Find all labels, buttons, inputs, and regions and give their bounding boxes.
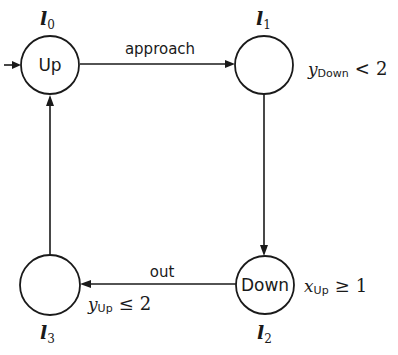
- location-l1[interactable]: l1 yDown<2: [235, 7, 387, 94]
- edge-l1-l2[interactable]: [260, 94, 268, 256]
- initial-arrow: [4, 61, 21, 69]
- edge-l2-l3[interactable]: out: [80, 263, 236, 288]
- edge-l0-l1[interactable]: approach: [80, 40, 235, 68]
- location-l2[interactable]: Down l2 xUp≥1: [236, 256, 367, 346]
- location-l3[interactable]: l3 yUp≤2: [20, 255, 151, 346]
- location-name-l3: l3: [40, 321, 55, 346]
- location-l0[interactable]: Up l0: [21, 7, 79, 94]
- edge-label-out: out: [150, 263, 175, 281]
- invariant-l3: yUp≤2: [87, 293, 151, 315]
- location-label-down: Down: [241, 275, 289, 295]
- location-label-up: Up: [38, 55, 61, 75]
- edge-l3-l0[interactable]: [46, 95, 54, 255]
- timed-automaton-diagram: approach out Up l0 l1 yDown<2 Down: [0, 0, 398, 355]
- invariant-l2: xUp≥1: [304, 275, 367, 297]
- location-name-l2: l2: [257, 321, 272, 346]
- invariant-l1: yDown<2: [307, 58, 387, 80]
- location-name-l1: l1: [256, 7, 271, 32]
- edge-label-approach: approach: [125, 40, 195, 58]
- location-name-l0: l0: [40, 7, 55, 32]
